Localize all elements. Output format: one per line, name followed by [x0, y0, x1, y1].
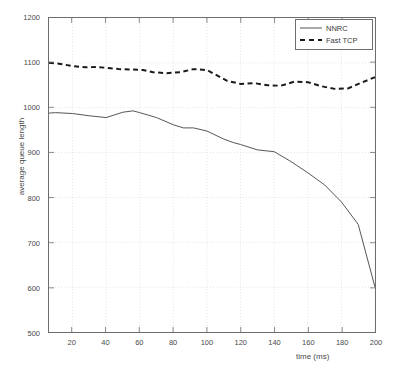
chart-legend: NNRC Fast TCP — [295, 19, 373, 50]
y-axis-label: average queue length — [17, 97, 26, 217]
plot-canvas — [49, 18, 375, 332]
y-tick-1100: 1100 — [0, 58, 40, 67]
series-line-fast-tcp — [49, 63, 375, 89]
chart-figure: 120011001000900800700600500 204060801001… — [0, 0, 395, 377]
y-tick-600: 600 — [0, 283, 40, 292]
legend-line-dashed-icon — [299, 35, 323, 45]
x-tick-200: 200 — [356, 338, 395, 347]
y-tick-1200: 1200 — [0, 13, 40, 22]
data-series-layer — [49, 63, 375, 287]
plot-area — [48, 17, 376, 333]
chart-title — [0, 0, 395, 9]
gridlines — [49, 18, 375, 332]
y-tick-500: 500 — [0, 329, 40, 338]
y-tick-700: 700 — [0, 238, 40, 247]
legend-label-fast-tcp: Fast TCP — [326, 36, 358, 45]
legend-line-solid-icon — [299, 23, 323, 33]
series-line-nnrc — [49, 111, 375, 287]
legend-label-nnrc: NNRC — [326, 24, 348, 33]
legend-item-nnrc: NNRC — [299, 22, 369, 34]
x-axis-label: time (ms) — [296, 352, 329, 361]
legend-item-fast-tcp: Fast TCP — [299, 34, 369, 46]
